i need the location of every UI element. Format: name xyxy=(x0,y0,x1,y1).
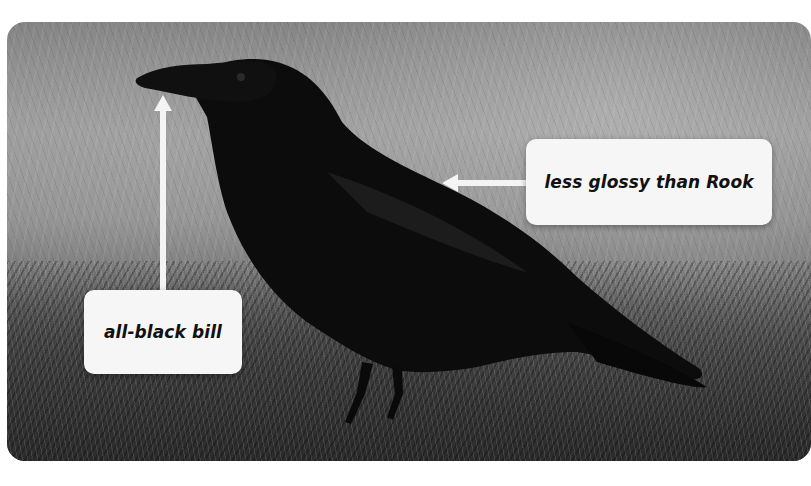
arrow-up-icon xyxy=(154,95,172,291)
arrow-left-icon xyxy=(442,174,532,192)
label-glossy-text: less glossy than Rook xyxy=(544,172,753,192)
crow-silhouette xyxy=(7,22,811,461)
label-all-black-bill: all-black bill xyxy=(84,290,242,374)
label-bill-text: all-black bill xyxy=(104,322,222,342)
crow-photo xyxy=(7,22,811,461)
label-less-glossy: less glossy than Rook xyxy=(526,139,772,225)
